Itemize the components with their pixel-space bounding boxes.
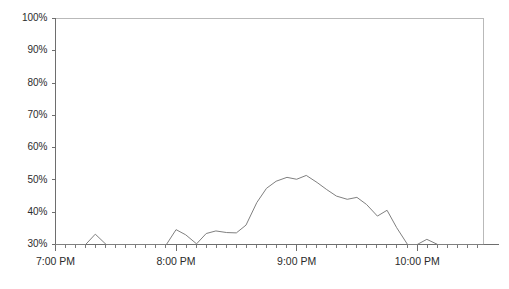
x-axis-minor-ticks — [56, 245, 478, 249]
series-line-value — [56, 175, 484, 244]
y-tick-label: 30% — [27, 238, 47, 249]
y-tick-label: 80% — [27, 77, 47, 88]
y-tick-label: 70% — [27, 109, 47, 120]
y-axis-ticks — [52, 19, 56, 245]
y-tick-label: 40% — [27, 206, 47, 217]
x-axis: 7:00 PM8:00 PM9:00 PM10:00 PM — [36, 245, 499, 267]
data-series-group — [56, 175, 484, 244]
line-chart: 30%40%50%60%70%80%90%100% 7:00 PM8:00 PM… — [0, 0, 509, 289]
x-tick-label: 10:00 PM — [395, 255, 440, 267]
chart-canvas: 30%40%50%60%70%80%90%100% 7:00 PM8:00 PM… — [0, 0, 509, 289]
x-tick-label: 7:00 PM — [36, 255, 75, 267]
y-tick-label: 60% — [27, 141, 47, 152]
y-axis: 30%40%50%60%70%80%90%100% — [22, 12, 56, 249]
y-tick-label: 90% — [27, 44, 47, 55]
x-axis-tick-labels: 7:00 PM8:00 PM9:00 PM10:00 PM — [36, 255, 440, 267]
plot-frame — [56, 19, 484, 245]
x-tick-label: 8:00 PM — [157, 255, 196, 267]
y-tick-label: 50% — [27, 174, 47, 185]
y-axis-tick-labels: 30%40%50%60%70%80%90%100% — [22, 12, 48, 249]
y-tick-label: 100% — [22, 12, 48, 23]
x-tick-label: 9:00 PM — [277, 255, 316, 267]
